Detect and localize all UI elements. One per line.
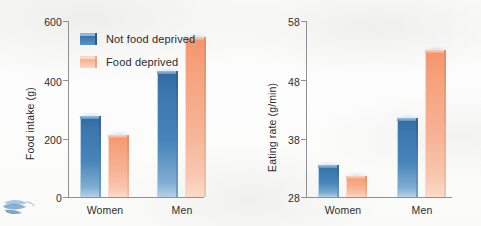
legend-label-not-food-deprived: Not food deprived (106, 33, 195, 45)
bar-edge (176, 71, 178, 197)
y-axis-line-right (306, 21, 307, 198)
bar-cap (108, 135, 129, 138)
bar-edge (337, 165, 339, 197)
y-tick-right-48 (301, 80, 306, 81)
y-tick-right-58 (301, 21, 306, 22)
x-category-label-left-men: Men (151, 204, 213, 216)
bar-edge (204, 37, 206, 197)
bar-cap (157, 71, 178, 74)
bar-cap (425, 50, 446, 53)
legend-item-not-food-deprived[interactable]: Not food deprived (80, 33, 195, 45)
chart-panel-eating-rate: Eating rate (g/min) 58 48 38 28 (240, 0, 481, 226)
bar-edge (127, 135, 129, 197)
y-axis-label-right: Eating rate (g/min) (266, 83, 278, 172)
bar-face (157, 71, 178, 197)
y-tick-label-right-48: 48 (276, 76, 300, 88)
bar-men-food-deprived-right[interactable] (425, 50, 446, 197)
legend-item-food-deprived[interactable]: Food deprived (80, 56, 178, 68)
y-tick-label-right-28: 28 (276, 192, 300, 204)
x-category-label-right-women: Women (312, 204, 374, 216)
bar-face (397, 118, 418, 197)
bar-edge (99, 116, 101, 197)
bar-men-not-food-deprived-left[interactable] (157, 71, 178, 197)
y-tick-left-400 (63, 80, 68, 81)
bar-face (425, 50, 446, 197)
y-tick-label-right-38: 38 (276, 134, 300, 146)
x-axis-line-left (68, 197, 204, 198)
bar-edge (365, 176, 367, 197)
legend-label-food-deprived: Food deprived (106, 56, 178, 68)
bar-edge (416, 118, 418, 197)
legend-swatch-not-food-deprived-icon (80, 33, 97, 45)
bar-men-not-food-deprived-right[interactable] (397, 118, 418, 197)
bar-face (108, 135, 129, 197)
legend-swatch-food-deprived-icon (80, 56, 97, 68)
x-category-label-left-women: Women (74, 204, 136, 216)
bar-face (318, 165, 339, 197)
bar-cap (318, 165, 339, 168)
bar-women-not-food-deprived-left[interactable] (80, 116, 101, 197)
y-tick-right-38 (301, 139, 306, 140)
y-tick-right-28 (301, 197, 306, 198)
bar-women-food-deprived-left[interactable] (108, 135, 129, 197)
bar-face (80, 116, 101, 197)
y-tick-label-left-400: 400 (34, 76, 62, 88)
y-tick-left-200 (63, 139, 68, 140)
bar-face (346, 176, 367, 197)
bar-cap (80, 116, 101, 119)
y-axis-label-left: Food intake (g) (24, 87, 36, 160)
y-tick-label-left-600: 600 (34, 16, 62, 28)
bar-cap (397, 118, 418, 121)
bar-women-not-food-deprived-right[interactable] (318, 165, 339, 197)
y-tick-left-600 (63, 21, 68, 22)
bar-cap (346, 176, 367, 179)
y-tick-left-0 (63, 197, 68, 198)
x-category-label-right-men: Men (391, 204, 453, 216)
x-axis-line-right (306, 197, 452, 198)
bar-women-food-deprived-right[interactable] (346, 176, 367, 197)
y-tick-label-left-0: 0 (34, 192, 62, 204)
bar-men-food-deprived-left[interactable] (185, 37, 206, 197)
two-panel-bar-figure: Food intake (g) 600 400 200 0 (0, 0, 481, 226)
y-axis-line-left (68, 21, 69, 198)
chart-panel-food-intake: Food intake (g) 600 400 200 0 (0, 0, 240, 226)
y-tick-label-right-58: 58 (276, 16, 300, 28)
y-tick-label-left-200: 200 (34, 134, 62, 146)
bar-face (185, 37, 206, 197)
bar-edge (444, 50, 446, 197)
